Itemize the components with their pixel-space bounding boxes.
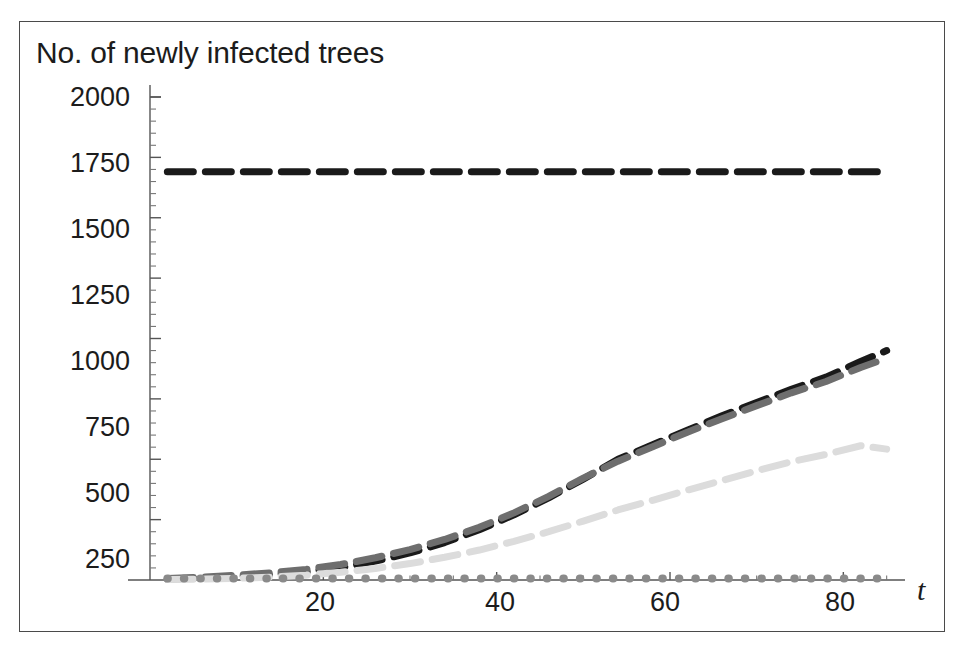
series-rising-light	[167, 446, 886, 580]
chart-canvas	[0, 0, 963, 650]
figure: No. of newly infected trees 2000 1750 15…	[0, 0, 963, 650]
axis-layer	[128, 85, 905, 580]
series-layer	[167, 172, 886, 580]
